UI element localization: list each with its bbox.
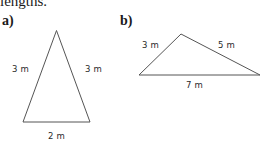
triangle-a-left-side-length: 3 m bbox=[12, 65, 29, 74]
triangle-b-left-side-length: 3 m bbox=[142, 41, 159, 50]
triangle-a-base-length: 2 m bbox=[48, 132, 65, 141]
triangle-a bbox=[23, 31, 90, 123]
triangle-diagrams bbox=[0, 0, 261, 148]
triangle-a-right-side-length: 3 m bbox=[85, 65, 102, 74]
triangle-b-right-side-length: 5 m bbox=[218, 41, 235, 50]
triangle-b-base-length: 7 m bbox=[186, 81, 203, 90]
